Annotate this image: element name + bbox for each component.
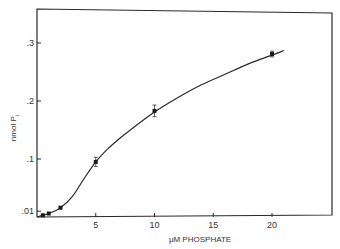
fitted-curve-line	[37, 51, 284, 217]
data-point	[94, 160, 98, 164]
chart: .01.1.2.3 5101520 μM PHOSPHATE nmol Pi	[0, 0, 340, 249]
data-point	[59, 206, 63, 210]
x-axis-title: μM PHOSPHATE	[169, 235, 231, 244]
x-tick-label: 20	[267, 220, 277, 230]
y-tick-label: .1	[26, 154, 34, 164]
y-axis-title: nmol Pi	[9, 115, 20, 141]
x-tick-label: 10	[149, 220, 159, 230]
y-tick-label: .3	[26, 38, 34, 48]
data-point	[41, 213, 45, 217]
x-tick-label: 15	[208, 220, 218, 230]
data-point	[47, 212, 51, 216]
fitted-curve-group	[37, 51, 284, 217]
y-axis-title-subscript: i	[14, 115, 20, 116]
x-tick-label: 5	[93, 220, 98, 230]
y-axis: .01.1.2.3	[21, 38, 41, 216]
data-point	[153, 109, 157, 113]
plot-frame	[37, 9, 332, 217]
data-point	[270, 52, 274, 56]
y-axis-title-group: nmol Pi	[9, 115, 20, 141]
plot-border	[37, 9, 332, 217]
y-axis-title-main: nmol P	[9, 116, 18, 141]
y-tick-label: .01	[21, 206, 34, 216]
y-tick-label: .2	[26, 96, 34, 106]
